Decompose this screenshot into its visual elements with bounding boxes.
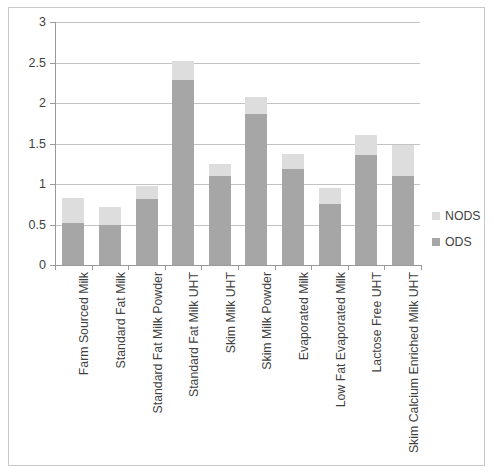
bar-column[interactable]: [319, 188, 341, 265]
bar-segment-nods[interactable]: [209, 164, 231, 176]
bar-segment-ods[interactable]: [62, 223, 84, 265]
x-axis-category-label: Farm Sourced Milk: [78, 272, 90, 375]
x-axis-tick: [384, 265, 385, 270]
x-axis-category-label: Lactose Free UHT: [371, 272, 383, 372]
y-axis-tick-label: 1.5: [2, 138, 46, 151]
y-axis-tick-label: 1: [2, 178, 46, 191]
x-axis-tick: [201, 265, 202, 270]
legend-label: NODS: [445, 210, 481, 222]
bar-segment-nods[interactable]: [62, 198, 84, 223]
x-axis-tick: [238, 265, 239, 270]
bar-segment-ods[interactable]: [172, 80, 194, 265]
x-axis-category-label: Skim Milk UHT: [225, 272, 237, 353]
bar-segment-ods[interactable]: [99, 225, 121, 266]
bar-column[interactable]: [99, 207, 121, 265]
x-axis-tick: [348, 265, 349, 270]
bar-segment-ods[interactable]: [355, 155, 377, 265]
x-axis-category-label: Standard Fat Milk: [115, 272, 127, 368]
bar-segment-ods[interactable]: [282, 169, 304, 265]
bar-segment-nods[interactable]: [172, 61, 194, 80]
x-axis-tick: [165, 265, 166, 270]
x-axis-category-label: Skim Calcium Enriched Milk UHT: [408, 272, 420, 453]
bar-column[interactable]: [245, 97, 267, 265]
bar-segment-nods[interactable]: [282, 154, 304, 169]
bar-segment-nods[interactable]: [392, 145, 414, 176]
x-axis-tick: [92, 265, 93, 270]
bar-segment-nods[interactable]: [99, 207, 121, 225]
x-axis-tick: [311, 265, 312, 270]
legend-label: ODS: [445, 236, 472, 248]
bar-column[interactable]: [355, 135, 377, 265]
legend-swatch-icon: [432, 212, 440, 220]
bar-segment-nods[interactable]: [319, 188, 341, 204]
bar-segment-ods[interactable]: [209, 176, 231, 265]
y-axis-labels: 32.521.510.50: [0, 0, 46, 475]
x-axis-category-label: Low Fat Evaporated Milk: [335, 272, 347, 407]
bar-segment-ods[interactable]: [392, 176, 414, 265]
bar-segment-ods[interactable]: [319, 204, 341, 265]
bars-layer: [55, 22, 421, 265]
y-axis-tick-label: 0: [2, 259, 46, 272]
chart-legend: NODSODS: [432, 210, 492, 262]
x-axis-tick: [55, 265, 56, 270]
y-axis-tick-label: 0.5: [2, 219, 46, 232]
bar-column[interactable]: [136, 186, 158, 265]
x-axis-category-label: Standard Fat Milk UHT: [188, 272, 200, 397]
x-axis-category-labels: Farm Sourced MilkStandard Fat MilkStanda…: [55, 272, 421, 462]
chart-container: 32.521.510.50 Farm Sourced MilkStandard …: [0, 0, 494, 475]
x-axis-tick: [128, 265, 129, 270]
legend-item[interactable]: NODS: [432, 210, 492, 222]
y-axis-tick-label: 2: [2, 97, 46, 110]
bar-column[interactable]: [209, 164, 231, 265]
x-axis-category-label: Skim Milk Powder: [261, 272, 273, 370]
y-axis-tick-label: 3: [2, 16, 46, 29]
x-axis-tick: [421, 265, 422, 270]
bar-column[interactable]: [62, 198, 84, 265]
bar-segment-nods[interactable]: [355, 135, 377, 155]
y-axis-tick-label: 2.5: [2, 57, 46, 70]
bar-segment-nods[interactable]: [136, 186, 158, 199]
bar-column[interactable]: [392, 145, 414, 265]
x-axis-tick: [275, 265, 276, 270]
bar-column[interactable]: [282, 154, 304, 265]
bar-segment-ods[interactable]: [136, 199, 158, 265]
legend-item[interactable]: ODS: [432, 236, 492, 248]
x-axis-category-label: Evaporated Milk: [298, 272, 310, 360]
bar-column[interactable]: [172, 61, 194, 265]
legend-swatch-icon: [432, 238, 440, 246]
bar-segment-ods[interactable]: [245, 114, 267, 265]
x-axis-category-label: Standard Fat Milk Powder: [152, 272, 164, 413]
bar-segment-nods[interactable]: [245, 97, 267, 115]
